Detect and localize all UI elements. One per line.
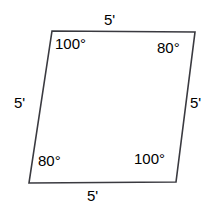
angle-label-top-left: 100° [55,36,86,51]
side-label-top: 5' [104,12,115,27]
geometry-figure: 5' 5' 5' 5' 100° 80° 100° 80° [0,0,213,211]
angle-label-bottom-right: 100° [134,151,165,166]
parallelogram-svg [0,0,213,211]
side-label-bottom: 5' [87,188,98,203]
angle-label-top-right: 80° [157,40,180,55]
angle-label-bottom-left: 80° [38,153,61,168]
side-label-left: 5' [14,95,25,110]
side-label-right: 5' [190,95,201,110]
